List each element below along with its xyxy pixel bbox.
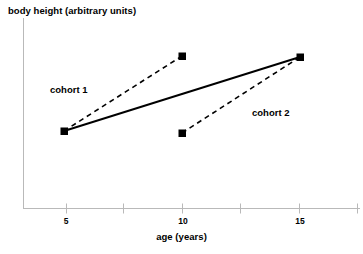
cohort-2-label: cohort 2 <box>252 107 289 118</box>
chart-figure: body height (arbitrary units) 5 10 <box>0 0 363 254</box>
x-axis-label: age (years) <box>0 231 363 242</box>
data-point-age10-high <box>179 53 187 61</box>
x-tick-label-15: 15 <box>285 216 315 226</box>
data-point-age5-low <box>61 128 69 136</box>
x-tick-label-5: 5 <box>51 216 81 226</box>
cohort-2-dashed-line <box>182 57 300 133</box>
data-point-age15-high <box>297 54 305 62</box>
cohort-1-label: cohort 1 <box>50 84 87 95</box>
overall-trend-solid-line <box>64 57 300 131</box>
data-point-age10-low <box>179 130 187 138</box>
x-tick-label-10: 10 <box>168 216 198 226</box>
